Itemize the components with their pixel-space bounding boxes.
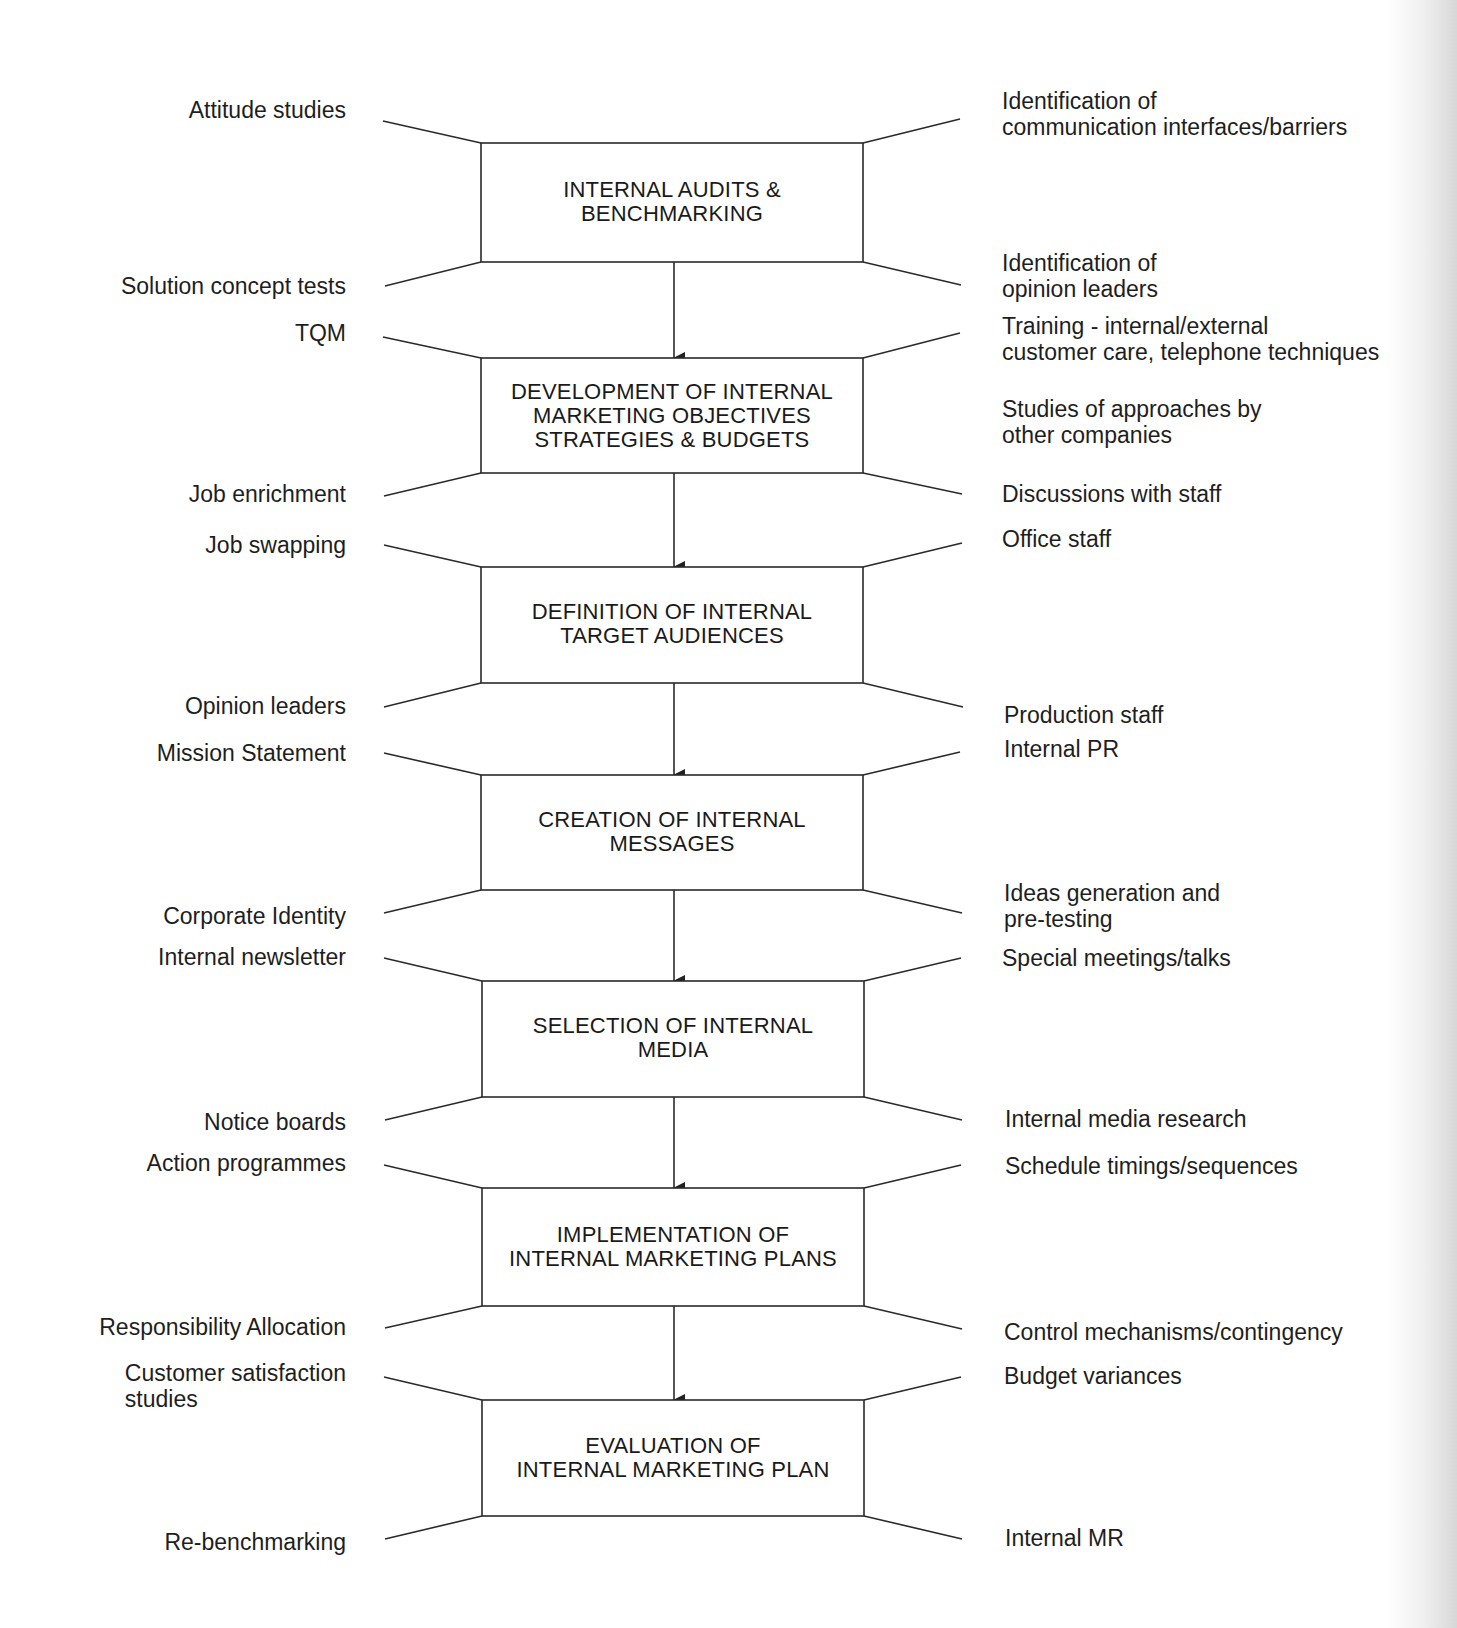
left-label-job-swapping: Job swapping — [205, 532, 346, 558]
left-label-attitude-studies: Attitude studies — [189, 97, 346, 123]
right-label-production-staff: Production staff — [1004, 702, 1163, 728]
left-label-tqm: TQM — [295, 320, 346, 346]
left-label-opinion-leaders: Opinion leaders — [185, 693, 346, 719]
left-label-mission-statement: Mission Statement — [157, 740, 346, 766]
left-label-notice-boards: Notice boards — [204, 1109, 346, 1135]
stage-label: INTERNAL AUDITS & BENCHMARKING — [563, 178, 781, 226]
stage-box-development-objectives: DEVELOPMENT OF INTERNAL MARKETING OBJECT… — [481, 358, 863, 473]
left-label-action-programmes: Action programmes — [147, 1150, 346, 1176]
left-label-job-enrichment: Job enrichment — [189, 481, 346, 507]
right-label-internal-pr: Internal PR — [1004, 736, 1119, 762]
left-label-solution-concept-tests: Solution concept tests — [121, 273, 346, 299]
stage-label: CREATION OF INTERNAL MESSAGES — [538, 808, 806, 856]
left-label-corporate-identity: Corporate Identity — [163, 903, 346, 929]
left-label-customer-satisfaction-studies: Customer satisfaction studies — [125, 1360, 346, 1412]
stage-box-creation-messages: CREATION OF INTERNAL MESSAGES — [481, 775, 863, 888]
right-label-studies-of-approaches: Studies of approaches by other companies — [1002, 396, 1262, 448]
stage-box-definition-target-audiences: DEFINITION OF INTERNAL TARGET AUDIENCES — [481, 567, 863, 681]
right-label-internal-mr: Internal MR — [1005, 1525, 1124, 1551]
right-label-control-mechanisms: Control mechanisms/contingency — [1004, 1319, 1343, 1345]
stage-box-implementation-plans: IMPLEMENTATION OF INTERNAL MARKETING PLA… — [482, 1188, 864, 1306]
right-label-communication-interfaces: Identification of communication interfac… — [1002, 88, 1347, 140]
stage-label: DEFINITION OF INTERNAL TARGET AUDIENCES — [532, 600, 813, 648]
left-label-re-benchmarking: Re-benchmarking — [164, 1529, 346, 1555]
right-label-discussions-with-staff: Discussions with staff — [1002, 481, 1221, 507]
right-label-budget-variances: Budget variances — [1004, 1363, 1182, 1389]
stage-label: IMPLEMENTATION OF INTERNAL MARKETING PLA… — [509, 1223, 837, 1271]
stage-box-internal-audits: INTERNAL AUDITS & BENCHMARKING — [481, 143, 863, 260]
stage-label: SELECTION OF INTERNAL MEDIA — [533, 1014, 813, 1062]
right-label-training: Training - internal/external customer ca… — [1002, 313, 1379, 365]
stage-label: DEVELOPMENT OF INTERNAL MARKETING OBJECT… — [511, 380, 833, 452]
stage-box-selection-media: SELECTION OF INTERNAL MEDIA — [482, 981, 864, 1095]
stage-label: EVALUATION OF INTERNAL MARKETING PLAN — [516, 1434, 829, 1482]
right-label-special-meetings: Special meetings/talks — [1002, 945, 1231, 971]
left-label-responsibility-allocation: Responsibility Allocation — [99, 1314, 346, 1340]
left-label-internal-newsletter: Internal newsletter — [158, 944, 346, 970]
right-label-schedule-timings: Schedule timings/sequences — [1005, 1153, 1298, 1179]
right-label-opinion-leaders-id: Identification of opinion leaders — [1002, 250, 1158, 302]
right-label-internal-media-research: Internal media research — [1005, 1106, 1247, 1132]
stage-box-evaluation-plan: EVALUATION OF INTERNAL MARKETING PLAN — [482, 1400, 864, 1516]
right-label-office-staff: Office staff — [1002, 526, 1111, 552]
right-label-ideas-generation: Ideas generation and pre-testing — [1004, 880, 1220, 932]
